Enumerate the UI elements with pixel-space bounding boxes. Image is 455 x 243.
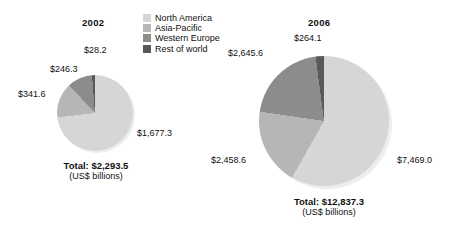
legend-label-rest-of-world: Rest of world	[155, 44, 208, 54]
slice-label-2006-rest-of-world: $264.1	[294, 33, 322, 43]
total-block-2002: Total: $2,293.5 (US$ billions)	[36, 160, 156, 182]
legend-item-north-america[interactable]: North America	[143, 13, 220, 23]
legend-swatch-icon-rest-of-world	[143, 45, 151, 53]
slice-label-2002-north-america: $1,677.3	[137, 128, 172, 138]
legend-label-north-america: North America	[155, 13, 212, 23]
total-block-2006: Total: $12,837.3 (US$ billions)	[264, 196, 394, 218]
legend-item-rest-of-world[interactable]: Rest of world	[143, 44, 220, 54]
legend-item-western-europe[interactable]: Western Europe	[143, 33, 220, 43]
pie-chart-2006	[259, 56, 389, 186]
legend: North America Asia-Pacific Western Europ…	[143, 13, 220, 54]
total-unit-2006: (US$ billions)	[264, 207, 394, 218]
legend-item-asia-pacific[interactable]: Asia-Pacific	[143, 23, 220, 33]
legend-label-asia-pacific: Asia-Pacific	[155, 23, 202, 33]
slice-label-2006-asia-pacific: $2,458.6	[211, 155, 246, 165]
total-unit-2002: (US$ billions)	[36, 171, 156, 182]
chart-title-2006: 2006	[308, 17, 330, 28]
slice-label-2002-asia-pacific: $341.6	[18, 89, 46, 99]
chart-title-2002: 2002	[82, 17, 104, 28]
slice-label-2002-rest-of-world: $28.2	[84, 45, 107, 55]
slice-label-2006-north-america: $7,469.0	[397, 155, 432, 165]
slice-label-2002-western-europe: $246.3	[50, 64, 78, 74]
pie-chart-figure: 2002 $28.2 $246.3 $341.6 $1,677.3 Total:…	[0, 0, 455, 243]
legend-swatch-icon-western-europe	[143, 34, 151, 42]
pie-chart-2002	[57, 75, 133, 151]
legend-swatch-icon-north-america	[143, 14, 151, 22]
total-value-2006: Total: $12,837.3	[264, 196, 394, 207]
total-value-2002: Total: $2,293.5	[36, 160, 156, 171]
slice-label-2006-western-europe: $2,645.6	[228, 48, 263, 58]
legend-label-western-europe: Western Europe	[155, 33, 220, 43]
legend-swatch-icon-asia-pacific	[143, 24, 151, 32]
